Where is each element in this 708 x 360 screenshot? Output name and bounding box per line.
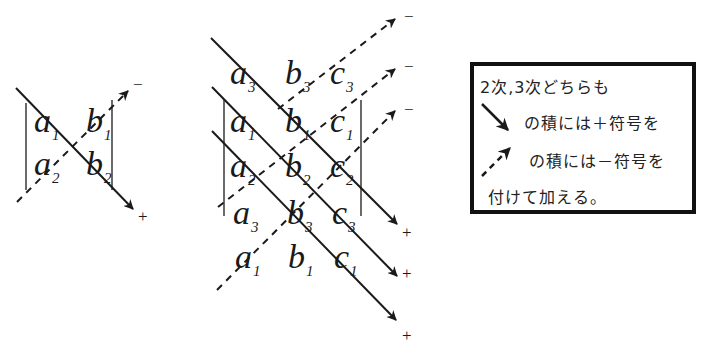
- det2-plus-sign: +: [138, 207, 148, 226]
- det2-a1: a1: [34, 102, 60, 143]
- det3-r2-c: c2: [330, 147, 354, 188]
- det3-r1-b: b1: [285, 102, 311, 143]
- dashed-arrow-legend-icon: [478, 140, 518, 180]
- note-line-3: の積には－符号を: [529, 148, 665, 172]
- det3-group: a3 b3 c3 a1 b1 c1 a2 b2 c2 a3 b3 c3 a1 b…: [211, 7, 414, 345]
- note-line-2: の積には＋符号を: [524, 110, 660, 134]
- det3-plus-sign-1: +: [402, 223, 412, 242]
- det3-r4-c: c1: [334, 238, 358, 279]
- det3-minus-sign-2: −: [404, 57, 414, 76]
- det3-r2-b: b2: [285, 147, 311, 188]
- det2-minus-sign: −: [133, 75, 143, 94]
- det3-r4-b: b1: [288, 238, 314, 279]
- det3-plus-sign-2: +: [402, 264, 412, 283]
- explanation-box: 2次,3次どちらも の積には＋符号を の積には－符号を 付けて加える。: [470, 62, 696, 214]
- solid-arrow-legend-icon: [478, 100, 518, 140]
- det2-b1: b1: [86, 102, 112, 143]
- det2-group: a1 b1 a2 b2 + −: [16, 75, 148, 226]
- det3-r1-c: c1: [330, 102, 354, 143]
- det3-r3-a: a3: [233, 194, 259, 235]
- det3-minus-sign-3: −: [404, 100, 414, 119]
- det3-r0-b: b3: [285, 54, 311, 95]
- det3-minus-sign-1: −: [404, 7, 414, 26]
- note-line-4: 付けて加える。: [488, 184, 607, 208]
- det3-plus-sign-3: +: [402, 326, 412, 345]
- note-line-1: 2次,3次どちらも: [480, 74, 610, 98]
